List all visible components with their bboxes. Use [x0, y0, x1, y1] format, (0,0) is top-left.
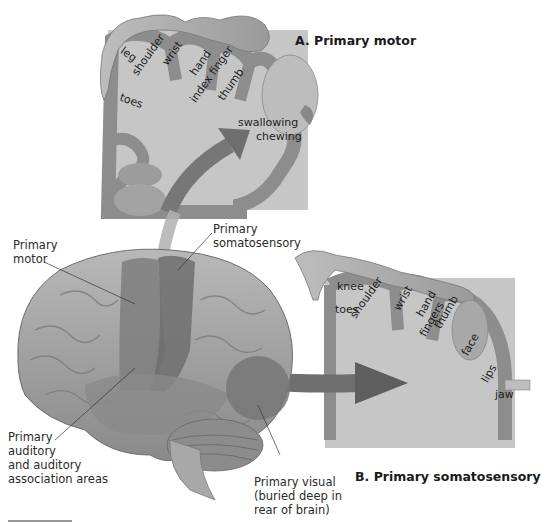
motor-label-chewing: chewing	[256, 130, 302, 143]
label-primary-auditory: Primary auditory and auditory associatio…	[8, 430, 108, 486]
panel-b-title: B. Primary somatosensory	[355, 469, 541, 484]
panel-a-title: A. Primary motor	[295, 33, 416, 48]
label-primary-visual: Primary visual (buried deep in rear of b…	[254, 475, 342, 517]
label-primary-somatosensory: Primary somatosensory	[213, 222, 301, 250]
sensory-label-toes: toes	[335, 303, 359, 316]
sensory-label-jaw: jaw	[495, 388, 514, 401]
label-primary-motor: Primary motor	[13, 238, 57, 266]
motor-label-swallowing: swallowing	[238, 116, 298, 129]
sensory-label-knee: knee	[337, 280, 364, 293]
